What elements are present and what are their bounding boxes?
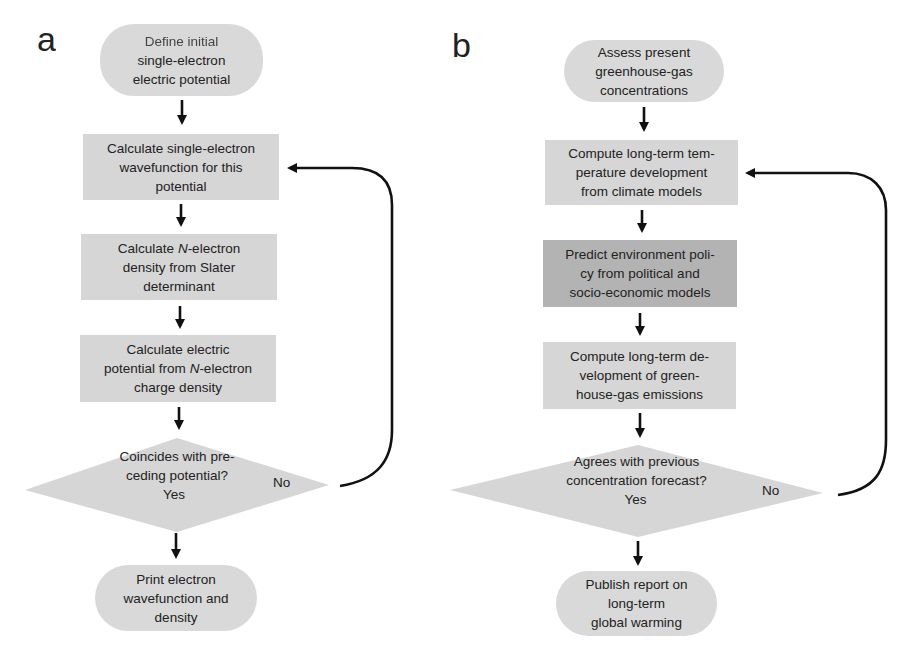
decision-b: Agrees with previous concentration forec… [450,445,823,537]
step-a-3-line1: Calculate electric [127,340,230,359]
step-a-2-line2: density from Slater [123,258,236,277]
step-b-1-line2: perature development [576,163,707,182]
start-b-line2: greenhouse-gas [595,62,693,81]
step-a-1-line3: potential [155,177,206,196]
step-b-3-line1: Compute long-term de- [570,347,709,366]
start-b-line3: concentrations [600,81,688,100]
step-b-2-line3: socio-economic models [569,283,710,302]
panel-label-b: b [452,30,471,62]
start-node-b: Assess present greenhouse-gas concentrat… [564,40,724,102]
step-b-1-line3: from climate models [581,182,702,201]
step-a-2-line3: determinant [143,277,214,296]
step-a-1-line1: Calculate single-electron [107,139,255,158]
step-a-2: Calculate N-electron density from Slater… [81,234,277,300]
step-a-1-line2: wavefunction for this [119,158,242,177]
start-node-a: Define initial single-electron electric … [100,24,263,96]
decision-a-line1: Coincides with pre- [25,447,329,466]
step-b-2-line2: cy from political and [580,264,699,283]
end-b-line3: global warming [591,613,682,632]
step-a-3-line3: charge density [134,378,222,397]
decision-b-no: No [762,483,779,498]
step-b-3: Compute long-term de- velopment of green… [543,342,736,409]
start-a-line3: electric potential [133,70,231,89]
step-b-2: Predict environment poli- cy from politi… [543,240,737,307]
end-node-a: Print electron wavefunction and density [95,565,257,631]
end-a-line3: density [155,608,198,627]
start-a-line2: single-electron [138,51,226,70]
step-b-1-line1: Compute long-term tem- [568,144,714,163]
step-a-3-line2: potential from N-electron [104,359,252,378]
arrows-layer [0,0,911,656]
decision-b-line1: Agrees with previous [450,452,823,471]
end-b-line2: long-term [608,594,665,613]
decision-a: Coincides with pre- ceding potential? Ye… [25,438,329,532]
step-a-2-line1: Calculate N-electron [118,239,240,258]
step-a-1: Calculate single-electron wavefunction f… [83,134,279,200]
end-a-line1: Print electron [136,570,216,589]
start-a-line1: Define initial [145,32,219,51]
start-b-line1: Assess present [598,43,690,62]
end-b-line1: Publish report on [585,575,687,594]
step-a-3: Calculate electric potential from N-elec… [80,335,276,402]
step-b-3-line3: house-gas emissions [576,385,703,404]
step-b-1: Compute long-term tem- perature developm… [545,140,738,205]
step-b-2-line1: Predict environment poli- [565,245,714,264]
step-b-3-line2: velopment of green- [579,366,699,385]
panel-label-a: a [37,30,56,56]
end-a-line2: wavefunction and [123,589,228,608]
decision-a-no: No [273,475,290,490]
end-node-b: Publish report on long-term global warmi… [556,571,717,636]
decision-b-text: Agrees with previous concentration forec… [450,452,823,509]
